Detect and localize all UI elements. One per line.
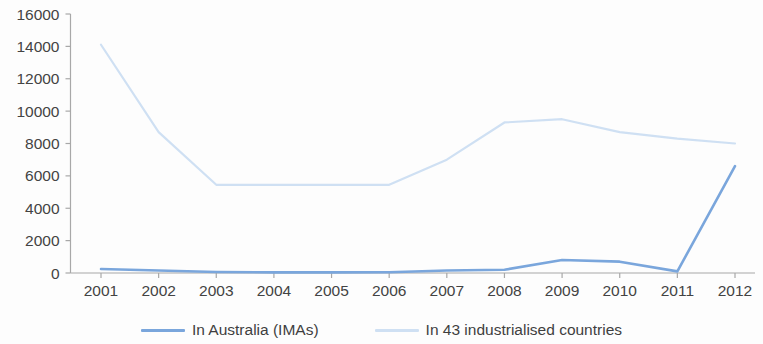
y-axis-tick-label: 12000 xyxy=(16,70,59,87)
legend-item-in-australia-imas: In Australia (IMAs) xyxy=(141,321,319,339)
x-axis-tick-label: 2007 xyxy=(430,282,464,299)
x-axis-tick-label: 2001 xyxy=(84,282,118,299)
y-axis-tick-label: 6000 xyxy=(25,167,60,184)
x-axis-tick-label: 2009 xyxy=(545,282,579,299)
y-axis-tick-label: 8000 xyxy=(25,135,60,152)
data-series-group xyxy=(101,45,735,273)
x-axis-tick-label: 2003 xyxy=(199,282,233,299)
line-chart: 0200040006000800010000120001400016000 20… xyxy=(0,0,763,344)
x-axis-tick-label: 2012 xyxy=(718,282,752,299)
plot-area: 0200040006000800010000120001400016000 20… xyxy=(0,0,763,312)
series-line-in-43-industrialised-countries xyxy=(101,45,735,185)
chart-canvas: 0200040006000800010000120001400016000 20… xyxy=(0,0,763,312)
y-axis-tick-label: 10000 xyxy=(16,103,59,120)
x-axis-tick-label: 2002 xyxy=(141,282,175,299)
legend-item-label: In Australia (IMAs) xyxy=(192,321,319,339)
legend-color-swatch xyxy=(375,329,419,332)
y-axis-tick-label: 16000 xyxy=(16,6,59,23)
y-axis-tick-label: 14000 xyxy=(16,38,59,55)
legend-item-in-43-industrialised-countries: In 43 industrialised countries xyxy=(375,321,622,339)
series-line-in-australia-imas xyxy=(101,166,735,272)
x-axis-tick-label: 2010 xyxy=(602,282,637,299)
legend-color-swatch xyxy=(141,329,185,332)
y-axis-tick-label: 0 xyxy=(51,265,60,282)
x-axis-tick-label: 2008 xyxy=(487,282,521,299)
x-axis-tick-label: 2005 xyxy=(314,282,348,299)
x-axis-tick-label: 2006 xyxy=(372,282,406,299)
y-axis-tick-label: 2000 xyxy=(25,232,60,249)
y-axis-tick-label: 4000 xyxy=(25,200,60,217)
legend-item-label: In 43 industrialised countries xyxy=(426,321,622,339)
x-axis: 2001200220032004200520062007200820092010… xyxy=(71,273,756,299)
chart-legend: In Australia (IMAs) In 43 industrialised… xyxy=(0,316,763,344)
x-axis-tick-label: 2004 xyxy=(257,282,292,299)
x-axis-tick-label: 2011 xyxy=(661,282,694,299)
y-axis: 0200040006000800010000120001400016000 xyxy=(16,6,70,282)
